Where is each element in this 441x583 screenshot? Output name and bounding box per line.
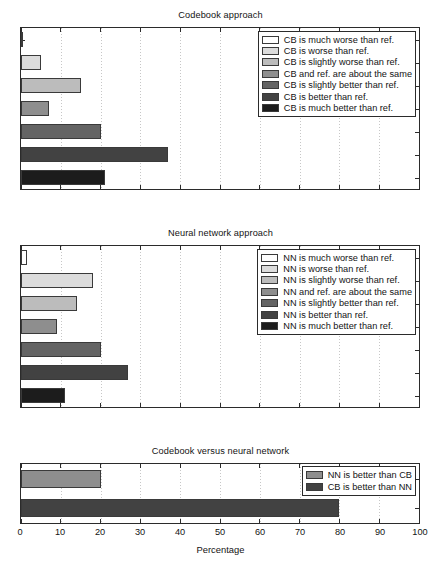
- x-tick-mark: [180, 246, 181, 250]
- panel-title-codebook: Codebook approach: [0, 10, 441, 20]
- bar: [21, 147, 168, 161]
- x-tick-mark: [419, 464, 420, 468]
- x-tick-mark: [419, 185, 420, 189]
- grid-line: [180, 246, 181, 407]
- x-tick-mark: [259, 464, 260, 468]
- bar: [21, 124, 101, 138]
- legend-item: CB is much worse than ref.: [262, 34, 412, 45]
- legend-swatch: [262, 81, 279, 89]
- x-tick-mark: [339, 519, 340, 523]
- bar: [21, 319, 57, 333]
- legend-swatch: [261, 311, 278, 319]
- legend-label: NN is worse than ref.: [283, 264, 369, 274]
- legend-label: CB is much better than ref.: [284, 103, 393, 113]
- grid-line: [220, 246, 221, 407]
- x-tick-label: 60: [255, 527, 265, 537]
- grid-line: [140, 246, 141, 407]
- x-tick-mark: [419, 403, 420, 407]
- legend-item: NN is better than CB: [306, 469, 412, 481]
- x-tick-mark: [379, 185, 380, 189]
- x-tick-mark: [299, 464, 300, 468]
- legend-item: NN is slightly better than ref.: [261, 298, 412, 309]
- x-tick-mark: [140, 28, 141, 32]
- legend-label: NN is better than ref.: [283, 310, 368, 320]
- x-tick-mark: [220, 28, 221, 32]
- y-tick-mark: [415, 155, 419, 156]
- x-tick-mark: [140, 403, 141, 407]
- legend-swatch: [261, 288, 278, 296]
- legend-swatch: [262, 47, 279, 55]
- bar: [21, 170, 105, 184]
- x-tick-mark: [419, 519, 420, 523]
- legend-label: CB is much worse than ref.: [284, 35, 394, 45]
- legend-swatch: [262, 70, 279, 78]
- legend-label: NN is better than CB: [328, 470, 412, 480]
- x-tick-label: 20: [95, 527, 105, 537]
- legend-neural-network: NN is much worse than ref.NN is worse th…: [257, 249, 416, 335]
- y-tick-mark: [415, 508, 419, 509]
- x-tick-mark: [60, 246, 61, 250]
- bar: [21, 499, 339, 517]
- y-tick-mark: [415, 373, 419, 374]
- y-tick-mark: [415, 132, 419, 133]
- x-tick-mark: [220, 464, 221, 468]
- legend-label: CB is better than NN: [328, 482, 412, 492]
- legend-item: NN and ref. are about the same: [261, 286, 412, 297]
- legend-swatch: [261, 322, 278, 330]
- axes-codebook: CB is much worse than ref.CB is worse th…: [20, 27, 420, 190]
- x-tick-mark: [339, 403, 340, 407]
- x-tick-mark: [21, 464, 22, 468]
- legend-item: CB is worse than ref.: [262, 45, 412, 56]
- panel-neural-network-approach: Neural network approach NN is much worse…: [0, 228, 441, 413]
- legend-swatch: [306, 483, 323, 491]
- x-tick-mark: [100, 464, 101, 468]
- x-tick-mark: [259, 403, 260, 407]
- legend-swatch: [261, 276, 278, 284]
- bar: [21, 250, 27, 264]
- x-tick-label: 10: [55, 527, 65, 537]
- figure-canvas: Codebook approach CB is much worse than …: [0, 0, 441, 583]
- legend-label: CB is worse than ref.: [284, 46, 369, 56]
- x-tick-mark: [140, 185, 141, 189]
- bar: [21, 365, 128, 379]
- x-tick-mark: [259, 185, 260, 189]
- legend-item: CB is better than ref.: [262, 91, 412, 102]
- x-tick-label: 0: [17, 527, 22, 537]
- x-tick-label: 30: [135, 527, 145, 537]
- legend-item: CB is slightly worse than ref.: [262, 57, 412, 68]
- legend-label: NN is much worse than ref.: [283, 253, 394, 263]
- x-tick-mark: [180, 464, 181, 468]
- legend-swatch: [262, 93, 279, 101]
- x-axis-label: Percentage: [0, 544, 441, 555]
- x-tick-mark: [60, 519, 61, 523]
- x-tick-mark: [299, 519, 300, 523]
- x-tick-mark: [100, 28, 101, 32]
- grid-line: [180, 28, 181, 189]
- x-tick-mark: [180, 519, 181, 523]
- legend-item: NN is much worse than ref.: [261, 252, 412, 263]
- x-tick-mark: [419, 246, 420, 250]
- x-tick-mark: [60, 464, 61, 468]
- x-tick-mark: [100, 403, 101, 407]
- bar: [21, 101, 49, 115]
- legend-swatch: [261, 265, 278, 273]
- legend-label: NN is much better than ref.: [283, 321, 393, 331]
- x-tick-mark: [339, 185, 340, 189]
- x-tick-mark: [60, 403, 61, 407]
- x-tick-mark: [220, 403, 221, 407]
- bar: [21, 296, 77, 310]
- legend-label: CB is slightly better than ref.: [284, 80, 399, 90]
- bar: [21, 273, 93, 287]
- x-tick-label: 40: [175, 527, 185, 537]
- x-tick-label: 90: [375, 527, 385, 537]
- grid-line: [61, 246, 62, 407]
- x-tick-mark: [220, 519, 221, 523]
- x-tick-mark: [140, 464, 141, 468]
- x-tick-label: 70: [295, 527, 305, 537]
- legend-codebook-vs-nn: NN is better than CBCB is better than NN: [302, 466, 416, 496]
- grid-line: [61, 28, 62, 189]
- x-tick-mark: [180, 185, 181, 189]
- bar: [21, 342, 101, 356]
- x-tick-mark: [140, 519, 141, 523]
- x-tick-mark: [299, 403, 300, 407]
